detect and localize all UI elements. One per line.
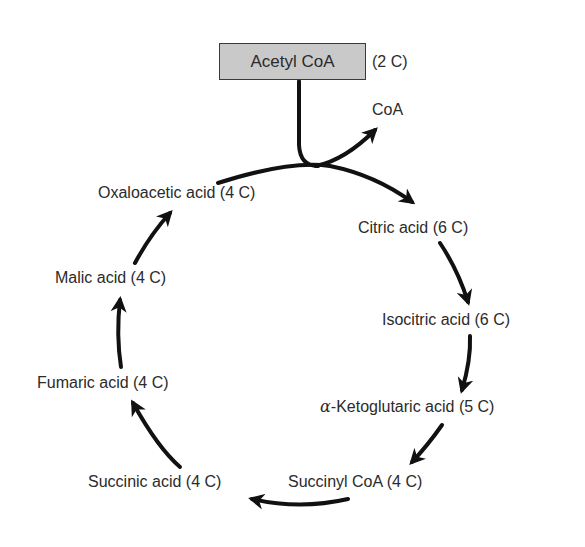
acetyl-coa-carbon-count: (2 C) (372, 53, 408, 71)
arrow-ketoglutaric-to-succinylcoa (412, 425, 442, 462)
arrow-fumaric-to-malic (118, 300, 121, 367)
coa-release-arrow (316, 130, 375, 166)
succinyl-coa-label: Succinyl CoA (4 C) (288, 473, 422, 491)
fumaric-acid-label: Fumaric acid (4 C) (37, 374, 169, 392)
oxaloacetic-acid-label: Oxaloacetic acid (4 C) (98, 184, 255, 202)
ketoglutaric-name: -Ketoglutaric acid (5 C) (331, 398, 495, 415)
arrow-isocitric-to-ketoglutaric (462, 336, 470, 390)
malic-acid-label: Malic acid (4 C) (55, 269, 166, 287)
arrow-malic-to-oxaloacetic (135, 213, 170, 263)
arrow-succinic-to-fumaric (133, 403, 180, 467)
isocitric-acid-label: Isocitric acid (6 C) (382, 311, 510, 329)
acetyl-coa-box: Acetyl CoA (219, 43, 366, 80)
succinic-acid-label: Succinic acid (4 C) (88, 473, 221, 491)
coa-label: CoA (372, 101, 403, 119)
citric-acid-label: Citric acid (6 C) (358, 219, 468, 237)
alpha-ketoglutaric-acid-label: α-Ketoglutaric acid (5 C) (320, 398, 494, 416)
acetyl-coa-entry-arrow (299, 81, 318, 166)
acetyl-coa-label: Acetyl CoA (250, 52, 334, 72)
alpha-prefix: α (320, 397, 331, 416)
arrow-citric-to-isocitric (440, 243, 468, 302)
krebs-cycle-diagram: Acetyl CoA (2 C) CoA Oxaloacetic acid (4… (0, 0, 585, 547)
arrow-succinylcoa-to-succinic (252, 499, 348, 505)
